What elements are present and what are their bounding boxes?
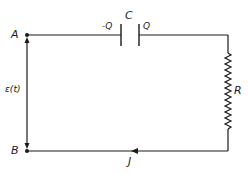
- node-b-label: B: [11, 145, 19, 156]
- node-a-label: A: [11, 29, 19, 40]
- current-label: J: [128, 156, 131, 167]
- node-a-dot: [25, 33, 29, 37]
- node-b-dot: [25, 149, 29, 153]
- right-plate-charge-label: Q: [143, 22, 150, 31]
- current-arrow-icon: [131, 148, 138, 154]
- emf-label: ε(t): [5, 85, 20, 94]
- circuit-diagram: A B ε(t) C -Q Q R J: [0, 0, 249, 174]
- left-plate-charge-label: -Q: [102, 22, 112, 31]
- capacitor-label: C: [125, 10, 133, 21]
- circuit-drawing: [0, 0, 249, 174]
- emf-down-arrow-icon: [25, 143, 30, 149]
- emf-up-arrow-icon: [25, 37, 30, 43]
- resistor-label: R: [234, 85, 242, 96]
- resistor-zigzag: [225, 53, 231, 129]
